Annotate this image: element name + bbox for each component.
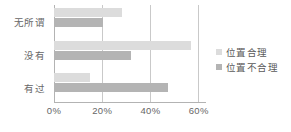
legend-item[interactable]: 位置不合理 — [216, 59, 291, 74]
y-axis-tick-label: 有过 — [24, 81, 45, 95]
legend: 位置合理 位置不合理 — [216, 44, 291, 74]
plot-area — [54, 5, 206, 103]
legend-item-label: 位置不合理 — [226, 60, 278, 74]
bar-series-0 — [54, 73, 90, 82]
x-axis-tick-label: 0% — [47, 105, 61, 116]
x-axis-tick-labels: 0% 20% 40% 60% — [0, 105, 291, 121]
bar-group — [54, 5, 206, 38]
y-axis-tick-label: 无所谓 — [14, 15, 45, 29]
y-axis-category-labels: 无所谓 没有 有过 — [0, 5, 49, 103]
legend-swatch-icon — [216, 49, 222, 55]
bar-group — [54, 70, 206, 103]
x-axis-tick-label: 60% — [189, 105, 209, 116]
bar-series-1 — [54, 51, 131, 60]
legend-item-label: 位置合理 — [226, 45, 268, 59]
bar-series-0 — [54, 41, 192, 50]
bar-series-0 — [54, 8, 123, 17]
bar-series-1 — [54, 83, 169, 92]
x-axis-tick-label: 20% — [92, 105, 112, 116]
legend-swatch-icon — [216, 64, 222, 70]
bar-series-1 — [54, 18, 103, 27]
y-axis-tick-label: 没有 — [24, 48, 45, 62]
x-axis-tick-label: 40% — [141, 105, 161, 116]
legend-item[interactable]: 位置合理 — [216, 44, 291, 59]
bar-group — [54, 38, 206, 71]
bar-chart: 无所谓 没有 有过 0% 20% 40% 60% 位置合理 — [0, 0, 291, 132]
